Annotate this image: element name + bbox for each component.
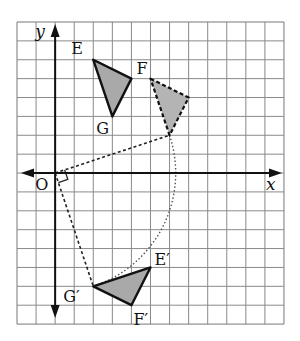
origin-label: O [35,175,48,194]
coordinate-grid-figure: x y O EFGE′F′G′ [0,0,300,341]
vertex-label-f: F [136,59,147,78]
vertex-label-f-prime: F′ [133,310,148,329]
triangle-intermediate [150,79,188,136]
triangles [93,60,188,305]
axes: x y O [21,21,282,318]
y-axis-label: y [34,21,45,41]
vertex-label-e: E [71,39,83,58]
vertex-label-g: G [96,119,109,138]
right-angle-marker [58,170,67,183]
vertex-label-e-prime: E′ [154,250,170,269]
y-axis-arrow-down-icon [51,305,60,318]
vertex-label-g-prime: G′ [63,287,80,306]
triangle-efg [93,60,131,117]
x-axis-arrow-left-icon [21,169,34,178]
y-axis-arrow-up-icon [51,24,60,37]
x-axis-label: x [266,174,276,194]
rotation-diagram: x y O EFGE′F′G′ [0,0,300,341]
